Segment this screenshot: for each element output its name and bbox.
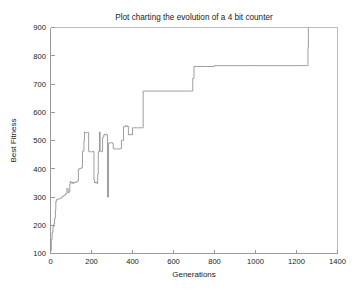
x-tick-label-0: 0 [48, 257, 52, 266]
y-tick-label-600: 600 [33, 108, 46, 117]
x-tick-label-200: 200 [85, 257, 98, 266]
x-tick-label-1000: 1000 [247, 257, 264, 266]
x-tick-label-600: 600 [167, 257, 180, 266]
axes-frame [51, 28, 338, 254]
y-tick-label-800: 800 [33, 52, 46, 61]
fitness-series-line [51, 28, 309, 251]
y-axis-tick-labels: 100 200 300 400 500 600 700 800 900 [33, 23, 46, 258]
y-axis-ticks [51, 28, 55, 254]
y-tick-label-200: 200 [33, 221, 46, 230]
y-tick-label-300: 300 [33, 193, 46, 202]
y-tick-label-500: 500 [33, 136, 46, 145]
y-tick-label-700: 700 [33, 80, 46, 89]
x-tick-label-800: 800 [208, 257, 221, 266]
x-axis-ticks [51, 250, 338, 254]
x-axis-label: Generations [172, 270, 216, 279]
x-tick-label-400: 400 [126, 257, 139, 266]
figure-container: Plot charting the evolution of a 4 bit c… [0, 0, 362, 296]
y-tick-label-100: 100 [33, 249, 46, 258]
x-tick-label-1200: 1200 [288, 257, 305, 266]
chart-title: Plot charting the evolution of a 4 bit c… [115, 13, 273, 22]
fitness-evolution-chart: Plot charting the evolution of a 4 bit c… [0, 0, 362, 296]
x-axis-tick-labels: 0 200 400 600 800 1000 1200 1400 [48, 257, 346, 266]
x-tick-label-1400: 1400 [329, 257, 346, 266]
y-axis-label: Best Fitness [9, 118, 18, 162]
y-tick-label-400: 400 [33, 165, 46, 174]
axis-lines [51, 28, 338, 254]
axis-box-top-right [51, 28, 338, 254]
y-tick-label-900: 900 [33, 23, 46, 32]
